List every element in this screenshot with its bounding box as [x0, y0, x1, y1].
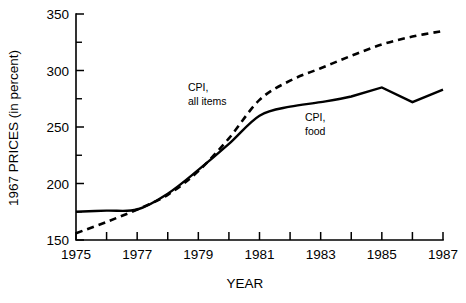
y-tick-label-200: 200: [46, 177, 69, 192]
x-tick-label-1985: 1985: [367, 247, 397, 262]
y-tick-label-350: 350: [46, 7, 69, 22]
y-axis-title: 1967 PRICES (in percent): [6, 50, 21, 206]
axis-lines: [76, 14, 443, 240]
annotation-line: CPI,: [305, 111, 325, 123]
x-tick-label-1975: 1975: [61, 247, 91, 262]
annotation-line: food: [305, 125, 326, 137]
x-axis-title: YEAR: [227, 276, 264, 291]
data-series: [76, 31, 443, 233]
series-cpi-all-items: [76, 31, 443, 233]
x-axis-tick-labels: 1975197719791981198319851987: [61, 247, 458, 262]
x-axis-ticks: [76, 232, 443, 240]
y-axis-tick-labels: 150200250300350: [46, 7, 69, 248]
series-annotations: CPI,all itemsCPI,food: [188, 81, 326, 137]
axes: 150200250300350 197519771979198119831985…: [46, 7, 458, 262]
x-tick-label-1979: 1979: [183, 247, 213, 262]
cpi-line-chart: 150200250300350 197519771979198119831985…: [0, 0, 466, 303]
annotation-cpi-all-items: CPI,all items: [188, 81, 227, 107]
annotation-cpi-food: CPI,food: [305, 111, 326, 137]
x-tick-label-1983: 1983: [306, 247, 336, 262]
y-tick-label-300: 300: [46, 64, 69, 79]
y-axis-ticks: [76, 14, 84, 240]
x-tick-label-1977: 1977: [122, 247, 152, 262]
annotation-line: all items: [188, 95, 227, 107]
series-cpi-food: [76, 87, 443, 211]
chart-container: 150200250300350 197519771979198119831985…: [0, 0, 466, 303]
x-tick-label-1987: 1987: [428, 247, 458, 262]
x-tick-label-1981: 1981: [244, 247, 274, 262]
y-tick-label-250: 250: [46, 120, 69, 135]
annotation-line: CPI,: [188, 81, 208, 93]
y-tick-label-150: 150: [46, 233, 69, 248]
